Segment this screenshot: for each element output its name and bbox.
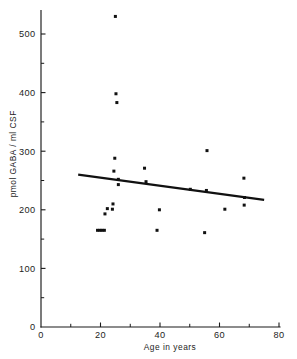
data-point [223,208,226,211]
data-point [243,196,246,199]
x-axis-title: Age in years [144,342,197,352]
y-tick-label-0: 0 [30,322,36,332]
x-tick-label-60: 60 [214,330,225,340]
axes [41,11,280,327]
data-point [111,208,114,211]
data-point [156,229,159,232]
data-point [205,189,208,192]
data-point [117,178,120,181]
data-point [111,202,114,205]
data-point [242,177,245,180]
x-tick-label-20: 20 [95,330,106,340]
data-point [103,212,106,215]
data-point [103,229,106,232]
data-point [158,208,161,211]
x-tick-label-40: 40 [154,330,165,340]
data-point [114,92,117,95]
data-point [106,207,109,210]
data-point [243,204,246,207]
y-tick-label-200: 200 [19,205,36,215]
y-tick-label-500: 500 [19,29,36,39]
data-point [113,157,116,160]
data-point [117,183,120,186]
regression-line-path [78,175,264,200]
x-tick-label-0: 0 [38,330,44,340]
data-point [189,188,192,191]
plot-canvas: 0100200300400500020406080 Age in yearspm… [0,0,297,359]
data-point [203,231,206,234]
data-point [114,15,117,18]
y-tick-label-100: 100 [19,264,36,274]
x-tick-label-80: 80 [273,330,284,340]
data-point [206,149,209,152]
data-point [112,170,115,173]
data-point [143,167,146,170]
data-point [145,180,148,183]
regression-line [78,175,264,200]
scatter-plot-figure: 0100200300400500020406080 Age in yearspm… [0,0,297,359]
y-axis-title: pmol GABA / ml CSF [8,110,18,197]
tick-marks [41,34,279,327]
data-point [115,101,118,104]
y-tick-label-300: 300 [19,147,36,157]
y-tick-label-400: 400 [19,88,36,98]
data-points [96,15,246,234]
